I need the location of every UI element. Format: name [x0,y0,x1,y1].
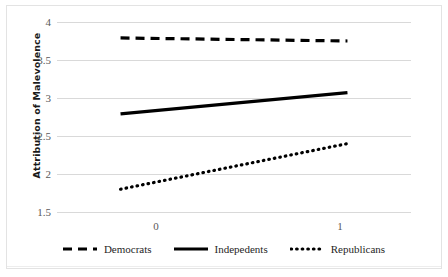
legend-item-democrats: Democrats [63,243,152,255]
x-tick-label-0: 0 [153,220,159,232]
series-layer [57,22,411,212]
legend-label-democrats: Democrats [104,243,152,255]
y-tick-label-4: 4 [46,16,52,28]
y-tick-label-3: 3 [46,92,52,104]
plot-area: 4 3.5 3 2.5 2 1.5 0 1 [57,22,411,212]
legend-label-indepedents: Indepedents [215,243,268,255]
legend-label-republicans: Republicans [331,243,385,255]
gridline-1-5: 1.5 [57,212,411,213]
series-line-democrats [121,38,348,41]
chart-legend: Democrats Indepedents Republicans [0,243,448,255]
series-line-republicans [121,144,348,190]
x-tick-label-1: 1 [337,220,343,232]
y-tick-label-2: 2 [46,168,52,180]
legend-divider [7,266,441,267]
legend-item-republicans: Republicans [290,243,385,255]
chart-figure: Attribution of Malevolence 4 3.5 3 2.5 2… [0,0,448,277]
legend-swatch-dotted-icon [290,244,324,254]
legend-swatch-solid-icon [174,244,208,254]
legend-swatch-dashed-icon [63,244,97,254]
legend-item-indepedents: Indepedents [174,243,268,255]
y-tick-label-3-5: 3.5 [37,54,51,66]
y-axis-title: Attribution of Malevolence [31,21,42,191]
y-tick-label-1-5: 1.5 [37,206,51,218]
y-tick-label-2-5: 2.5 [37,130,51,142]
series-line-indepedents [121,93,348,114]
